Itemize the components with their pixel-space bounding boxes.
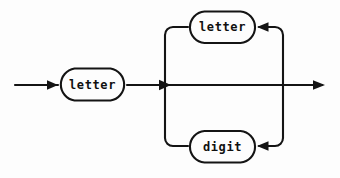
bottom-feedback-arrowhead-icon [257,141,269,151]
exit-arrowhead-icon [313,80,325,90]
syntax-diagram: letter letter digit [0,0,340,178]
railroad-track-graphic [0,0,340,178]
left-rail-line [165,27,188,146]
top-feedback-arrowhead-icon [257,22,269,32]
entry-arrowhead-icon [47,80,58,90]
loop-digit-node-outline [190,131,255,163]
start-letter-node-outline [61,69,124,101]
loop-letter-node-outline [190,12,255,44]
right-rail-line [259,27,283,146]
